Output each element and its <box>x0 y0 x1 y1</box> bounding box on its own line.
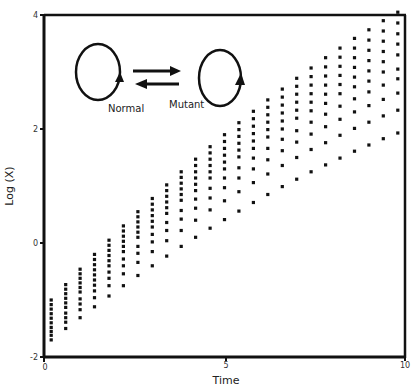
data-point <box>295 141 298 144</box>
x-tick-label-10: 10 <box>400 361 410 370</box>
data-point <box>180 170 183 173</box>
data-point <box>310 101 313 104</box>
data-point <box>93 289 96 292</box>
data-point <box>310 109 313 112</box>
data-point <box>79 308 82 311</box>
y-tick-label-neg2: -2 <box>30 353 38 362</box>
data-point <box>252 181 255 184</box>
data-point <box>136 210 139 213</box>
series-7 <box>50 77 400 329</box>
series-3 <box>50 32 400 311</box>
data-point <box>93 305 96 308</box>
data-point <box>310 133 313 136</box>
data-point <box>281 149 284 152</box>
normal-label: Normal <box>108 103 144 114</box>
data-point <box>50 330 53 333</box>
y-tick-label-0: 0 <box>33 239 38 248</box>
data-point <box>367 49 370 52</box>
data-point <box>107 239 110 242</box>
data-point <box>165 183 168 186</box>
data-point <box>367 80 370 83</box>
data-point <box>396 77 399 80</box>
data-point <box>50 317 53 320</box>
data-point <box>252 110 255 113</box>
data-points <box>50 11 400 342</box>
data-point <box>194 207 197 210</box>
data-point <box>353 37 356 40</box>
x-axis-title: Time <box>212 374 240 387</box>
data-point <box>180 245 183 248</box>
data-point <box>50 326 53 329</box>
data-point <box>79 290 82 293</box>
mutant-cycle-icon <box>199 50 245 106</box>
data-point <box>223 199 226 202</box>
data-point <box>107 249 110 252</box>
data-point <box>266 106 269 109</box>
data-point <box>266 147 269 150</box>
data-point <box>353 97 356 100</box>
data-point <box>310 148 313 151</box>
data-point <box>338 105 341 108</box>
data-point <box>295 156 298 159</box>
data-point <box>122 284 125 287</box>
data-point <box>194 183 197 186</box>
data-point <box>237 142 240 145</box>
data-point <box>107 284 110 287</box>
data-point <box>338 56 341 59</box>
data-point <box>194 170 197 173</box>
data-point <box>64 301 67 304</box>
data-point <box>382 70 385 73</box>
y-tick-label-4: 4 <box>33 11 38 20</box>
data-point <box>151 214 154 217</box>
data-point <box>136 274 139 277</box>
data-point <box>107 264 110 267</box>
data-point <box>79 277 82 280</box>
data-point <box>165 195 168 198</box>
y-axis-ticks: 4 2 0 -2 <box>30 11 44 362</box>
data-point <box>266 113 269 116</box>
data-point <box>396 109 399 112</box>
data-point <box>367 39 370 42</box>
data-point <box>252 139 255 142</box>
data-point <box>266 172 269 175</box>
data-point <box>165 212 168 215</box>
data-point <box>338 118 341 121</box>
data-point <box>209 208 212 211</box>
data-point <box>50 303 53 306</box>
data-point <box>353 66 356 69</box>
data-point <box>237 121 240 124</box>
data-point <box>396 53 399 56</box>
data-point <box>281 164 284 167</box>
data-point <box>180 176 183 179</box>
data-point <box>396 21 399 24</box>
data-point <box>151 197 154 200</box>
data-point <box>295 117 298 120</box>
data-point <box>122 240 125 243</box>
data-point <box>180 199 183 202</box>
data-point <box>122 245 125 248</box>
data-point <box>396 43 399 46</box>
data-point <box>122 272 125 275</box>
data-point <box>237 135 240 138</box>
data-point <box>79 302 82 305</box>
data-point <box>382 98 385 101</box>
data-point <box>353 85 356 88</box>
data-point <box>136 231 139 234</box>
data-point <box>252 167 255 170</box>
data-point <box>266 128 269 131</box>
inset-diagram: Normal Mutant <box>76 44 245 114</box>
data-point <box>180 182 183 185</box>
data-point <box>396 11 399 14</box>
data-point <box>281 119 284 122</box>
data-point <box>266 135 269 138</box>
data-point <box>382 60 385 63</box>
data-point <box>64 306 67 309</box>
data-point <box>151 203 154 206</box>
data-point <box>324 141 327 144</box>
series-8 <box>50 92 400 334</box>
data-point <box>281 88 284 91</box>
data-point <box>122 235 125 238</box>
data-point <box>122 229 125 232</box>
data-point <box>136 261 139 264</box>
data-point <box>50 338 53 341</box>
